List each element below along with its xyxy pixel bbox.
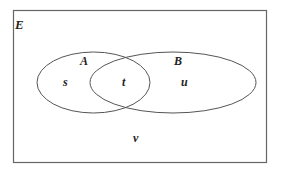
region-outside-label: v	[133, 131, 139, 145]
region-b-only-label: u	[181, 75, 188, 89]
set-a-label: A	[79, 54, 88, 68]
set-b-ellipse	[90, 52, 256, 113]
set-a-ellipse	[37, 52, 150, 113]
region-a-and-b-label: t	[122, 75, 126, 89]
universal-set-rectangle	[14, 11, 267, 163]
venn-diagram: E A B s t u v	[0, 0, 283, 170]
set-b-label: B	[173, 54, 182, 68]
region-a-only-label: s	[62, 75, 68, 89]
universal-set-label: E	[14, 17, 24, 32]
